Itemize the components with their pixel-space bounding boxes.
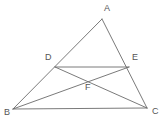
side-bc: [13, 108, 147, 109]
vertex-label-a: A: [104, 4, 110, 13]
cevian-be: [13, 67, 129, 109]
vertex-label-d: D: [45, 53, 52, 62]
vertex-label-f: F: [85, 83, 91, 92]
side-ac: [102, 19, 147, 108]
side-ab: [13, 19, 102, 109]
geometry-figure: A B C D E F: [0, 0, 167, 123]
figure-canvas: [0, 0, 167, 123]
vertex-label-e: E: [132, 53, 138, 62]
cevian-dc: [55, 67, 147, 108]
vertex-label-b: B: [4, 108, 10, 117]
vertex-label-c: C: [152, 107, 159, 116]
